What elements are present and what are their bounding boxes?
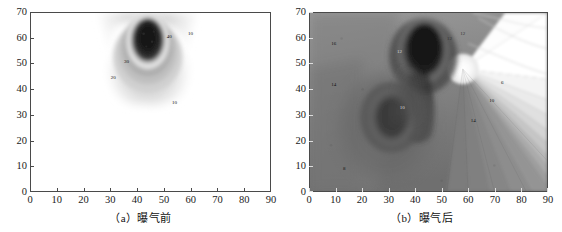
contour-label: 12 bbox=[460, 31, 465, 36]
x-tick: 20 bbox=[357, 195, 368, 206]
lower-halo-b bbox=[336, 71, 436, 183]
x-tick: 60 bbox=[463, 195, 474, 206]
contour-label: 12 bbox=[447, 36, 452, 41]
panel-b: 16 14 8 12 10 12 12 6 10 14 70 60 50 40 … bbox=[281, 0, 562, 232]
contour-label: 30 bbox=[124, 59, 129, 64]
caption-b: （b）曝气后 bbox=[281, 209, 562, 225]
contour-label: 10 bbox=[489, 97, 494, 102]
y-tick: 40 bbox=[17, 84, 28, 95]
contour-label: 40 bbox=[167, 33, 172, 38]
contour-field-a bbox=[31, 13, 270, 191]
contour-label: 16 bbox=[331, 41, 336, 46]
x-tick: 0 bbox=[306, 195, 311, 206]
contour-label: 20 bbox=[111, 74, 116, 79]
contour-label: 14 bbox=[331, 82, 336, 87]
x-tick: 90 bbox=[543, 195, 554, 206]
x-tick: 30 bbox=[105, 195, 116, 206]
y-tick: 60 bbox=[17, 32, 28, 43]
y-axis-a: 70 60 50 40 30 20 10 0 bbox=[0, 12, 27, 192]
y-tick: 20 bbox=[296, 135, 307, 146]
plume-core-a bbox=[127, 13, 169, 69]
y-tick: 10 bbox=[296, 161, 307, 172]
plot-area-b: 16 14 8 12 10 12 12 6 10 14 bbox=[309, 12, 548, 192]
contour-label: 6 bbox=[501, 79, 504, 84]
plot-area-a: 40 30 20 10 10 bbox=[30, 12, 271, 192]
panel-a: 40 30 20 10 10 70 60 50 40 30 20 10 0 bbox=[0, 0, 281, 232]
x-tick: 60 bbox=[185, 195, 196, 206]
x-tick: 40 bbox=[132, 195, 143, 206]
x-tick: 90 bbox=[266, 195, 277, 206]
x-tick: 10 bbox=[330, 195, 341, 206]
x-tick: 70 bbox=[490, 195, 501, 206]
figure-root: 40 30 20 10 10 70 60 50 40 30 20 10 0 bbox=[0, 0, 562, 232]
y-tick: 10 bbox=[17, 161, 28, 172]
x-tick: 30 bbox=[383, 195, 394, 206]
x-tick: 80 bbox=[516, 195, 527, 206]
contour-label: 10 bbox=[188, 31, 193, 36]
x-tick: 80 bbox=[239, 195, 250, 206]
y-tick: 70 bbox=[17, 7, 28, 18]
caption-a: （a）曝气前 bbox=[0, 209, 281, 225]
x-tick: 40 bbox=[410, 195, 421, 206]
contour-label: 12 bbox=[397, 49, 402, 54]
x-tick: 50 bbox=[159, 195, 170, 206]
y-tick: 40 bbox=[296, 84, 307, 95]
y-tick: 30 bbox=[296, 110, 307, 121]
y-tick: 20 bbox=[17, 135, 28, 146]
x-tick: 10 bbox=[52, 195, 63, 206]
contour-label: 10 bbox=[400, 105, 405, 110]
contour-label: 14 bbox=[471, 117, 476, 122]
contour-field-b bbox=[310, 13, 547, 191]
x-tick: 20 bbox=[78, 195, 89, 206]
x-tick: 0 bbox=[27, 195, 32, 206]
y-tick: 30 bbox=[17, 110, 28, 121]
contour-label: 10 bbox=[172, 100, 177, 105]
y-tick: 50 bbox=[17, 58, 28, 69]
y-tick: 60 bbox=[296, 32, 307, 43]
x-tick: 50 bbox=[437, 195, 448, 206]
y-tick: 70 bbox=[296, 7, 307, 18]
y-tick: 50 bbox=[296, 58, 307, 69]
contour-label: 8 bbox=[343, 166, 346, 171]
x-tick: 70 bbox=[212, 195, 223, 206]
y-tick: 0 bbox=[22, 187, 27, 198]
y-axis-b: 70 60 50 40 30 20 10 0 bbox=[281, 12, 306, 192]
y-tick: 0 bbox=[301, 187, 306, 198]
